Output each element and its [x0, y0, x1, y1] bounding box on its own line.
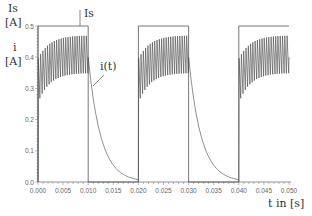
current-chart: 0.0000.0050.0100.0150.0200.0250.0300.035…	[0, 0, 312, 216]
x-tick-label: 0.035	[206, 187, 223, 194]
x-tick-label: 0.010	[80, 187, 97, 194]
y-tick-label: 0.4	[25, 54, 34, 61]
x-axis-label: t in [s]	[268, 197, 304, 210]
x-tick-label: 0.050	[281, 187, 298, 194]
x-tick-label: 0.000	[30, 187, 47, 194]
x-tick-label: 0.030	[180, 187, 197, 194]
y-axis-label-i: i	[13, 41, 17, 54]
y-axis-label-i-unit: [A]	[5, 55, 22, 68]
chart-plot-area: 0.0000.0050.0100.0150.0200.0250.0300.035…	[0, 0, 312, 216]
is-annotation: Is	[84, 7, 94, 20]
it-annotation: i(t)	[100, 60, 117, 73]
y-axis-label-is-unit: [A]	[5, 16, 22, 29]
y-axis-label-is: Is	[8, 2, 18, 15]
x-tick-label: 0.015	[105, 187, 122, 194]
y-tick-label: 0.2	[25, 116, 34, 123]
x-tick-label: 0.025	[155, 187, 172, 194]
i-series-line	[38, 36, 289, 182]
it-leader-line	[93, 75, 104, 86]
x-tick-label: 0.005	[55, 187, 72, 194]
y-tick-label: 0.3	[25, 85, 34, 92]
y-tick-label: 0.1	[25, 147, 34, 154]
y-tick-label: 0.0	[25, 179, 34, 186]
x-tick-label: 0.045	[256, 187, 273, 194]
x-tick-label: 0.020	[130, 187, 147, 194]
y-tick-label: 0.5	[25, 23, 34, 30]
x-tick-label: 0.040	[231, 187, 248, 194]
